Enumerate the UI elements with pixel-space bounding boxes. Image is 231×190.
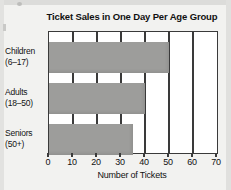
plot-area: [48, 31, 218, 154]
bar: [49, 124, 133, 155]
x-tick-label: 10: [61, 157, 83, 167]
chart-page: Ticket Sales in One Day Per Age Group Ch…: [0, 0, 231, 190]
x-axis-title: Number of Tickets: [46, 170, 218, 180]
bar: [49, 83, 145, 114]
category-label-line-1: Children: [5, 46, 47, 57]
x-tick-label: 0: [37, 157, 59, 167]
x-tick-label: 30: [109, 157, 131, 167]
category-label: Seniors(50+): [5, 128, 47, 149]
x-tick-label: 50: [157, 157, 179, 167]
category-label-line-2: (6–17): [5, 57, 47, 68]
category-label-line-2: (50+): [5, 139, 47, 150]
x-tick-label: 70: [205, 157, 227, 167]
x-tick-label: 20: [85, 157, 107, 167]
x-tick-label: 40: [133, 157, 155, 167]
page-edge-top: [0, 0, 231, 5]
scan-speck: [17, 2, 22, 6]
category-label-line-1: Seniors: [5, 128, 47, 139]
bar: [49, 42, 169, 73]
category-label-line-2: (18–50): [5, 98, 47, 109]
category-label: Children(6–17): [5, 46, 47, 67]
category-label-line-1: Adults: [5, 87, 47, 98]
x-tick-label: 60: [181, 157, 203, 167]
scan-speck-secondary: [3, 24, 6, 31]
gridline-60: [192, 32, 194, 153]
category-label: Adults(18–50): [5, 87, 47, 108]
chart-title: Ticket Sales in One Day Per Age Group: [46, 11, 218, 22]
